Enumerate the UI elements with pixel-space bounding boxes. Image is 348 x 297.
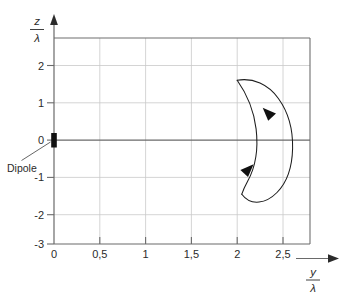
y-tick-label: 0 <box>38 134 44 146</box>
x-tick-label: 2,5 <box>275 248 290 260</box>
x-tick-label: 0,5 <box>92 248 107 260</box>
x-tick-label: 1 <box>143 248 149 260</box>
y-tick-label: -2 <box>34 209 44 221</box>
y-tick-label: 1 <box>38 97 44 109</box>
x-tick-label: 2 <box>234 248 240 260</box>
y-tick-label: -1 <box>34 171 44 183</box>
z-axis-denominator: λ <box>33 32 40 44</box>
dipole-field-figure: Dipole 0 0,5 1 1,5 2 2,5 2 1 0 -1 -2 -3 … <box>0 0 348 297</box>
x-tick-label: 1,5 <box>184 248 199 260</box>
y-tick-label: 2 <box>38 60 44 72</box>
dipole-label: Dipole <box>7 162 37 174</box>
dipole-marker <box>51 133 57 148</box>
z-axis-numerator: z <box>33 15 40 27</box>
plot-svg: Dipole 0 0,5 1 1,5 2 2,5 2 1 0 -1 -2 -3 … <box>0 0 348 297</box>
x-tick-label: 0 <box>51 248 57 260</box>
y-axis-denominator: λ <box>309 282 316 294</box>
y-tick-label: -3 <box>34 238 44 250</box>
